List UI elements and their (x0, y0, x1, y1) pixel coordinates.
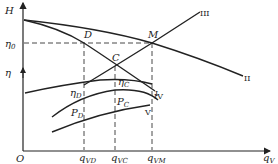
label-eta-C: ηC (118, 76, 130, 89)
tick-qVD: qVD (79, 152, 96, 164)
tick-qVC: qVC (111, 152, 128, 164)
label-eta-D: ηD (70, 87, 82, 100)
curve-III (84, 12, 200, 85)
label-origin: O (16, 153, 24, 164)
curve-eta-D (25, 80, 152, 94)
label-II: II (244, 74, 250, 83)
label-eta0: η0 (5, 38, 16, 51)
label-qV: qV (263, 152, 275, 164)
curve-II (24, 20, 243, 76)
label-V: V (144, 108, 151, 117)
label-H: H (4, 5, 14, 16)
label-III: III (200, 9, 209, 18)
curve-IV (52, 90, 158, 117)
tick-qVM: qVM (147, 152, 166, 164)
label-IV-visible: IV (154, 92, 163, 101)
point-M: M (147, 29, 159, 40)
point-D: D (83, 29, 92, 40)
curve-V (52, 105, 150, 132)
point-C: C (112, 52, 120, 63)
label-P-C: PC (116, 96, 130, 109)
label-P-D: PD (70, 107, 84, 120)
label-eta: η (5, 67, 11, 78)
performance-diagram: H η0 η O D C M III II I IV IV V ηD ηC PD… (0, 0, 278, 164)
